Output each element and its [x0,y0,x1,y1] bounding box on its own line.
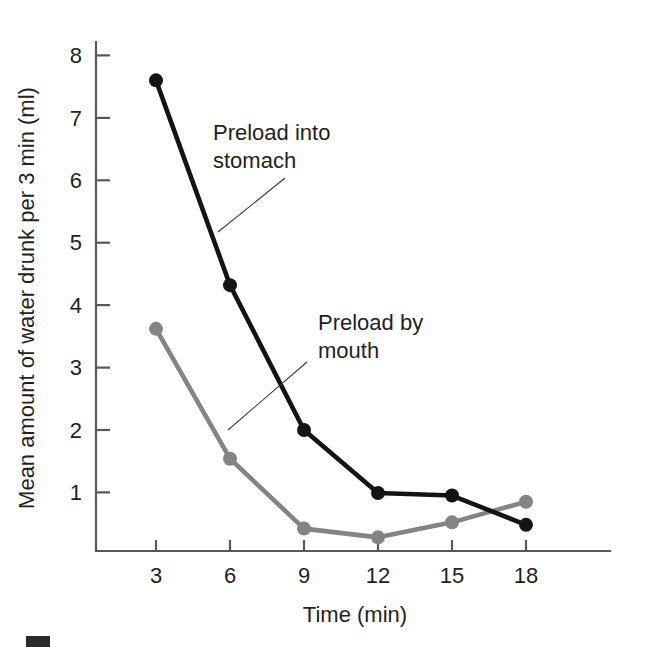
y-tick-label-3: 3 [70,355,82,380]
series-line-preload-into-stomach [156,80,526,524]
annotation-stomach-line2: stomach [213,148,296,173]
y-tick-label-8: 8 [70,43,82,68]
data-point [223,452,237,466]
y-axis-title: Mean amount of water drunk per 3 min (ml… [14,87,39,509]
figure-corner-mark [26,636,50,647]
data-point [371,530,385,544]
x-tick-label-18: 18 [514,563,538,588]
figure-container: 1 2 3 4 5 6 7 8 3 6 9 12 15 18 Time (min… [0,0,646,647]
y-tick-label-6: 6 [70,168,82,193]
data-point [297,423,311,437]
x-tick-label-6: 6 [224,563,236,588]
x-axis-title: Time (min) [303,602,407,627]
annotation-stomach-line1: Preload into [213,120,330,145]
x-tick-marks [156,540,526,551]
x-tick-label-12: 12 [366,563,390,588]
y-tick-label-4: 4 [70,293,82,318]
annotation-mouth-line1: Preload by [318,310,423,335]
x-tick-label-15: 15 [440,563,464,588]
line-chart: 1 2 3 4 5 6 7 8 3 6 9 12 15 18 Time (min… [0,0,646,647]
y-tick-marks [96,55,110,492]
y-tick-label-1: 1 [70,480,82,505]
data-point [519,518,533,532]
annotation-mouth-line2: mouth [318,338,379,363]
y-tick-label-2: 2 [70,418,82,443]
data-point [149,322,163,336]
x-tick-label-3: 3 [150,563,162,588]
leader-line-mouth [228,362,307,430]
leader-line-stomach [218,178,285,232]
data-point [149,73,163,87]
data-point [297,522,311,536]
data-point [445,515,459,529]
y-tick-label-5: 5 [70,230,82,255]
data-point [519,495,533,509]
data-point [445,489,459,503]
data-point [223,278,237,292]
y-tick-label-7: 7 [70,106,82,131]
data-point [371,486,385,500]
x-tick-label-9: 9 [298,563,310,588]
